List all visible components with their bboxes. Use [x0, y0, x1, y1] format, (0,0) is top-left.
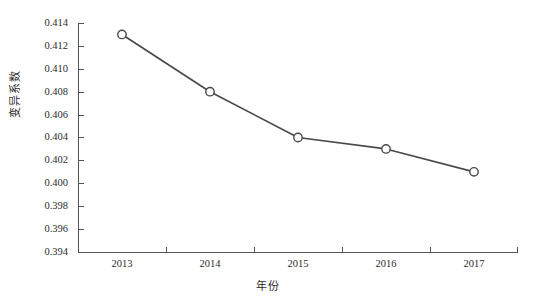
- data-point-marker: [118, 30, 126, 38]
- data-point-marker: [294, 133, 302, 141]
- line-chart: 0.4140.4120.4100.4080.4060.4040.4020.400…: [0, 0, 536, 307]
- series-line: [122, 34, 474, 171]
- x-axis-title: 年份: [0, 277, 536, 293]
- y-axis-title: 变异系数: [6, 70, 22, 118]
- data-point-marker: [382, 145, 390, 153]
- data-point-marker: [206, 88, 214, 96]
- data-series-layer: [0, 0, 536, 307]
- data-point-marker: [470, 168, 478, 176]
